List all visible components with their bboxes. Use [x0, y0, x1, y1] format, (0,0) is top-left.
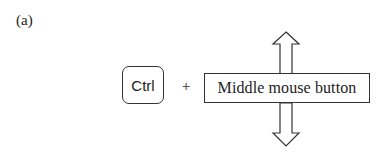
middle-mouse-button-label: Middle mouse button	[218, 79, 357, 97]
ctrl-key-label: Ctrl	[131, 77, 154, 94]
middle-mouse-button-box: Middle mouse button	[204, 73, 370, 103]
up-arrow-icon	[270, 30, 302, 74]
down-arrow-icon	[270, 103, 302, 149]
ctrl-key: Ctrl	[122, 66, 164, 104]
plus-operator: +	[182, 78, 190, 94]
panel-label: (a)	[16, 12, 33, 29]
